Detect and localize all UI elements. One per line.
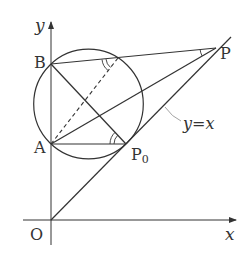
origin-label: O (30, 225, 43, 244)
y-axis-label: y (34, 15, 45, 35)
point-label-P0-main: P (131, 145, 142, 164)
point-label-A: A (33, 138, 46, 157)
point-label-P0: P0 (131, 145, 149, 166)
geometry-diagram: y x O B A P P0 y=x (0, 0, 249, 257)
point-label-P: P (220, 44, 231, 63)
point-label-P0-subscript: 0 (142, 153, 149, 166)
line-label-y-equals-x: y=x (182, 114, 214, 133)
angle-mark-Q-outer (102, 60, 108, 71)
segment-BP0 (51, 64, 126, 144)
angle-mark-P (200, 50, 202, 57)
x-axis-label: x (225, 224, 235, 244)
label-leader-line (165, 107, 181, 121)
point-label-B: B (34, 53, 46, 72)
angle-mark-Q-inner (106, 59, 111, 67)
angle-mark-P0-inner (114, 135, 118, 144)
